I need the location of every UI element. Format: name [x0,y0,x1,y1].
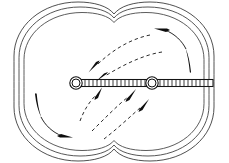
lower-dashed-arrow-1 [80,88,102,122]
dashed-arrows-upper-group [89,35,163,82]
lower-dashed-arrow-3 [104,99,149,139]
upper-right-solid-arrow [154,29,191,73]
upper-dashed-arrow-1 [89,35,151,73]
right-annulus [146,77,158,89]
left-annulus [70,77,82,89]
diagram-canvas [0,0,229,163]
hatched-rod-group [70,77,213,89]
lower-left-solid-arrow [35,93,73,137]
dashed-arrows-lower-group [80,88,149,140]
diagram-svg [0,0,229,163]
hatched-rod-body [76,80,213,87]
